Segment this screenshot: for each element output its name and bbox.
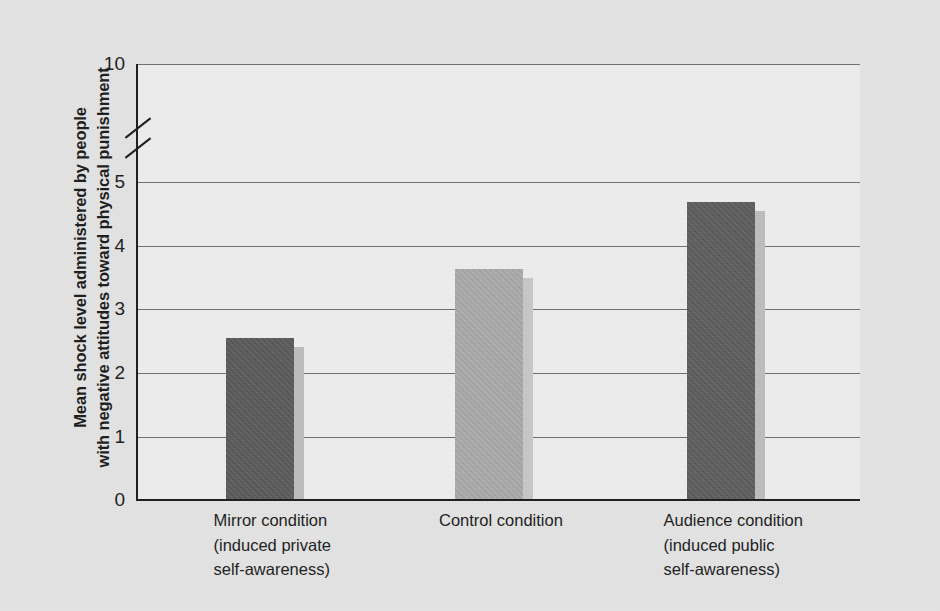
y-axis-title-line-2: with negative attitudes toward physical … — [92, 7, 115, 527]
x-tick-label-mirror-condition-line-1: Mirror condition — [214, 508, 331, 533]
gridline-10 — [136, 64, 860, 65]
bar-shadow-audience-condition — [755, 211, 765, 499]
y-tick-label-1: 1 — [114, 426, 125, 448]
x-tick-label-mirror-condition-line-2: (induced private — [214, 533, 331, 558]
x-tick-label-audience-condition-line-3: self-awareness) — [664, 557, 803, 582]
y-axis-title-line-1: Mean shock level administered by people — [69, 7, 92, 527]
x-tick-label-control-condition: Control condition — [439, 508, 563, 533]
x-axis-line — [136, 499, 860, 502]
x-tick-label-audience-condition-line-1: Audience condition — [664, 508, 803, 533]
y-axis-title: Mean shock level administered by people … — [69, 7, 116, 527]
bar-group-control-condition — [455, 269, 533, 499]
y-tick-label-5: 5 — [114, 171, 125, 193]
x-tick-label-control-condition-line-1: Control condition — [439, 508, 563, 533]
x-tick-label-audience-condition-line-2: (induced public — [664, 533, 803, 558]
gridline-5 — [136, 182, 860, 183]
x-tick-label-mirror-condition-line-3: self-awareness) — [214, 557, 331, 582]
y-tick-label-0: 0 — [114, 489, 125, 511]
y-tick-label-3: 3 — [114, 298, 125, 320]
bar-control-condition — [455, 269, 523, 499]
axis-break-icon — [122, 116, 156, 164]
plot-area: 10 5 4 3 2 1 0 — [136, 64, 860, 501]
bar-mirror-condition — [226, 338, 294, 499]
bar-shadow-control-condition — [523, 278, 533, 499]
bar-group-mirror-condition — [226, 338, 304, 499]
y-tick-label-10: 10 — [104, 53, 125, 75]
bar-shadow-mirror-condition — [294, 347, 304, 499]
bar-audience-condition — [687, 202, 755, 499]
x-tick-label-audience-condition: Audience condition (induced public self-… — [664, 508, 803, 582]
bar-group-audience-condition — [687, 202, 765, 499]
x-tick-label-mirror-condition: Mirror condition (induced private self-a… — [214, 508, 331, 582]
y-tick-label-4: 4 — [114, 235, 125, 257]
chart-figure: Mean shock level administered by people … — [0, 0, 940, 611]
y-tick-label-2: 2 — [114, 362, 125, 384]
